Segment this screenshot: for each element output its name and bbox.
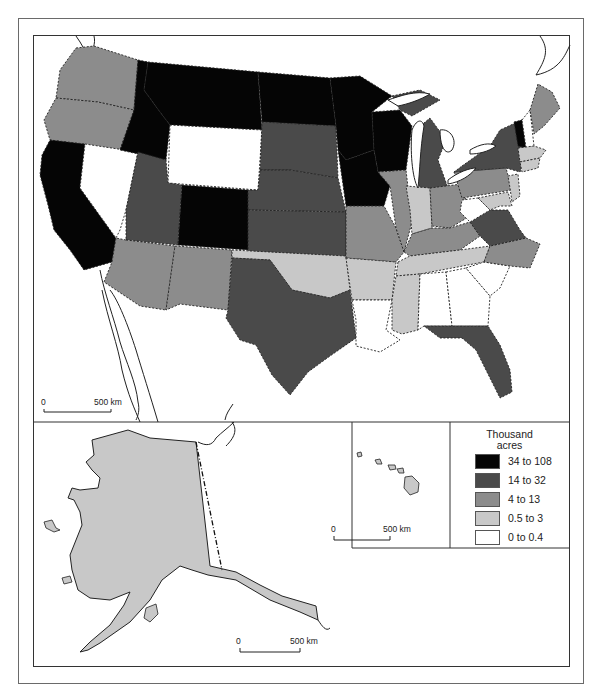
state-new-mexico[interactable]: [166, 246, 232, 310]
state-wisconsin[interactable]: [372, 110, 412, 172]
state-wyoming[interactable]: [168, 125, 262, 190]
state-alabama[interactable]: [418, 272, 452, 330]
contiguous-scale-start: 0: [41, 397, 46, 407]
legend-item: 0 to 0.4: [475, 529, 543, 545]
state-alaska[interactable]: [68, 430, 318, 652]
legend-swatch-0-0-4: [475, 530, 500, 545]
legend-label: 0.5 to 3: [508, 512, 543, 524]
hawaii-scale-end: 500 km: [383, 524, 411, 534]
state-arkansas[interactable]: [346, 258, 396, 300]
state-arizona[interactable]: [104, 238, 175, 310]
alaska-scale-bar: [240, 648, 300, 652]
legend-label: 4 to 13: [508, 493, 540, 505]
map-canvas: .st { stroke: #222; stroke-width: 0.9; s…: [0, 0, 603, 696]
legend-title: Thousand acres: [451, 429, 568, 451]
legend-item: 4 to 13: [475, 491, 540, 507]
contiguous-us-map: [40, 46, 560, 398]
alaska-inset: [44, 422, 330, 652]
legend-item: 0.5 to 3: [475, 510, 543, 526]
state-colorado[interactable]: [178, 185, 248, 250]
state-mississippi[interactable]: [392, 274, 420, 334]
state-north-dakota[interactable]: [258, 72, 336, 126]
legend-label: 0 to 0.4: [508, 531, 543, 543]
legend: Thousand acres 34 to 108 14 to 32 4 to 1…: [451, 423, 568, 547]
legend-swatch-0-5-3: [475, 511, 500, 526]
legend-label: 14 to 32: [508, 474, 546, 486]
state-florida[interactable]: [424, 326, 512, 398]
hawaii-scale-bar: [334, 536, 390, 540]
legend-swatch-4-13: [475, 492, 500, 507]
contiguous-scale-bar: [44, 409, 111, 412]
legend-item: 14 to 32: [475, 472, 546, 488]
island-hawaii: [404, 476, 419, 495]
state-maine[interactable]: [530, 84, 560, 134]
legend-swatch-34-108: [475, 454, 500, 469]
legend-title-line2: acres: [451, 440, 568, 451]
alaska-scale-end: 500 km: [290, 636, 318, 646]
state-kansas[interactable]: [248, 210, 346, 256]
contiguous-scale-end: 500 km: [94, 397, 122, 407]
hawaii-scale-start: 0: [331, 524, 336, 534]
legend-label: 34 to 108: [508, 455, 552, 467]
alaska-scale-start: 0: [236, 636, 241, 646]
legend-swatch-14-32: [475, 473, 500, 488]
legend-item: 34 to 108: [475, 453, 552, 469]
